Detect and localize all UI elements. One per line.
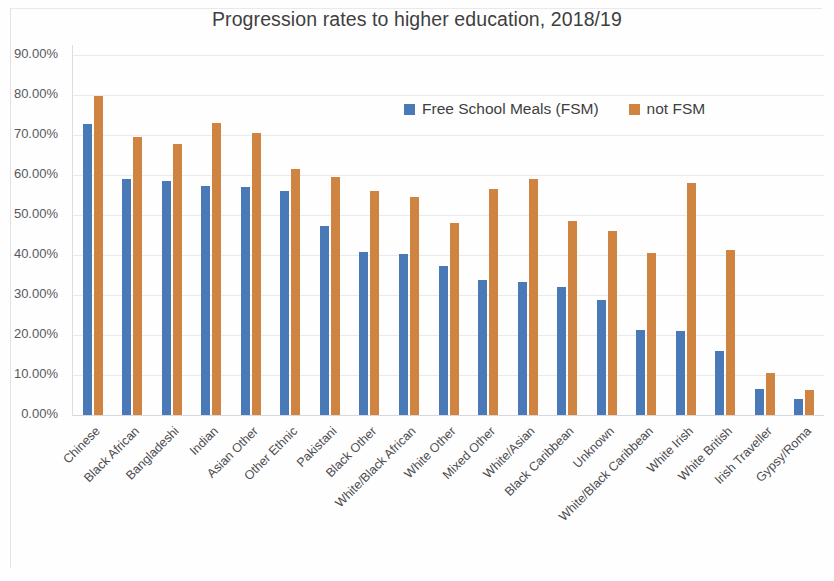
y-axis-tick-label: 60.00%: [0, 166, 58, 181]
bar-group: [745, 55, 785, 415]
y-axis-tick-label: 10.00%: [0, 366, 58, 381]
bar[interactable]: [608, 231, 617, 415]
bar[interactable]: [370, 191, 379, 415]
legend-label: Free School Meals (FSM): [422, 100, 599, 118]
bar-group: [706, 55, 746, 415]
x-axis-tick-slot: Asian Other: [231, 418, 271, 578]
y-axis-tick-label: 0.00%: [0, 406, 58, 421]
x-axis-tick-slot: White/Black African: [389, 418, 429, 578]
bar[interactable]: [676, 331, 685, 415]
chart-legend: Free School Meals (FSM)not FSM: [404, 100, 705, 118]
legend-item[interactable]: not FSM: [629, 100, 706, 118]
legend-swatch-icon: [629, 104, 640, 115]
bar[interactable]: [568, 221, 577, 415]
bar[interactable]: [597, 300, 606, 415]
bar[interactable]: [280, 191, 289, 415]
bar[interactable]: [755, 389, 764, 415]
x-axis-tick-slot: White Other: [429, 418, 469, 578]
x-axis-tick-label: Indian: [187, 424, 221, 458]
bar[interactable]: [241, 187, 250, 415]
bar[interactable]: [162, 181, 171, 415]
x-axis-tick-labels: ChineseBlack AfricanBangladeshiIndianAsi…: [73, 418, 824, 578]
x-axis-tick-slot: Bangladeshi: [152, 418, 192, 578]
bar[interactable]: [726, 250, 735, 415]
bar-group: [271, 55, 311, 415]
bar-group: [152, 55, 192, 415]
bar[interactable]: [687, 183, 696, 415]
legend-swatch-icon: [404, 104, 415, 115]
gridline: [73, 415, 824, 416]
y-axis-tick-label: 50.00%: [0, 206, 58, 221]
bar[interactable]: [794, 399, 803, 415]
bar[interactable]: [489, 189, 498, 415]
bar[interactable]: [252, 133, 261, 415]
bar[interactable]: [201, 186, 210, 415]
x-axis-tick-slot: Chinese: [73, 418, 113, 578]
x-axis-tick-slot: White/Asian: [508, 418, 548, 578]
bar[interactable]: [83, 124, 92, 415]
y-axis-tick-label: 20.00%: [0, 326, 58, 341]
x-axis-tick-slot: Unknown: [587, 418, 627, 578]
bar[interactable]: [805, 390, 814, 415]
x-axis-tick-slot: White British: [706, 418, 746, 578]
x-axis-tick-slot: Black Other: [350, 418, 390, 578]
bar[interactable]: [291, 169, 300, 415]
y-axis-tick-label: 40.00%: [0, 246, 58, 261]
x-axis-tick-slot: White/Black Caribbean: [626, 418, 666, 578]
bar-group: [785, 55, 825, 415]
bar[interactable]: [133, 137, 142, 415]
chart-title: Progression rates to higher education, 2…: [0, 8, 834, 31]
x-axis-tick-slot: Other Ethnic: [271, 418, 311, 578]
bar-group: [192, 55, 232, 415]
x-axis-tick-slot: Irish Traveller: [745, 418, 785, 578]
x-axis-tick-slot: Black African: [113, 418, 153, 578]
bar[interactable]: [478, 280, 487, 415]
bar[interactable]: [439, 266, 448, 415]
y-axis-tick-label: 70.00%: [0, 126, 58, 141]
bar-group: [73, 55, 113, 415]
bar[interactable]: [320, 226, 329, 415]
bar[interactable]: [331, 177, 340, 415]
legend-label: not FSM: [647, 100, 706, 118]
bar[interactable]: [94, 96, 103, 415]
x-axis-tick-slot: Mixed Other: [468, 418, 508, 578]
bar[interactable]: [647, 253, 656, 415]
x-axis-tick-slot: Gypsy/Roma: [785, 418, 825, 578]
x-axis-tick-slot: White Irish: [666, 418, 706, 578]
bar-group: [350, 55, 390, 415]
bar[interactable]: [399, 254, 408, 415]
bar[interactable]: [212, 123, 221, 415]
y-axis-tick-label: 90.00%: [0, 46, 58, 61]
bar[interactable]: [359, 252, 368, 415]
bar[interactable]: [173, 144, 182, 415]
chart-container: Progression rates to higher education, 2…: [0, 0, 834, 581]
bar-group: [113, 55, 153, 415]
x-axis-tick-slot: Indian: [192, 418, 232, 578]
bar-group: [310, 55, 350, 415]
y-axis-tick-label: 80.00%: [0, 86, 58, 101]
bar[interactable]: [410, 197, 419, 415]
bar[interactable]: [715, 351, 724, 415]
bar-group: [231, 55, 271, 415]
bar[interactable]: [557, 287, 566, 415]
bar[interactable]: [450, 223, 459, 415]
legend-item[interactable]: Free School Meals (FSM): [404, 100, 599, 118]
y-axis-tick-label: 30.00%: [0, 286, 58, 301]
bar[interactable]: [122, 179, 131, 415]
bar[interactable]: [766, 373, 775, 415]
bar[interactable]: [636, 330, 645, 415]
bar[interactable]: [518, 282, 527, 415]
bar[interactable]: [529, 179, 538, 415]
